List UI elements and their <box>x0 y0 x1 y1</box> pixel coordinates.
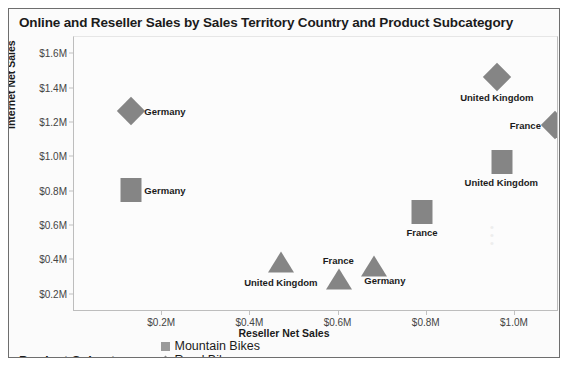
legend-marker-square-icon <box>161 342 170 351</box>
y-tick-label: $1.4M <box>23 82 67 93</box>
data-point-triangle[interactable] <box>268 252 294 273</box>
data-point-label: France <box>406 227 437 238</box>
data-point-label: Germany <box>144 106 185 117</box>
data-point-label: United Kingdom <box>244 277 317 288</box>
x-tick-label: $0.2M <box>147 317 175 328</box>
legend-item-square[interactable]: Mountain Bikes <box>161 339 259 353</box>
y-axis-title: Internet Net Sales <box>8 40 17 129</box>
x-tick-mark <box>514 311 515 315</box>
y-tick-label: $0.8M <box>23 185 67 196</box>
chart-legend: Product Subcategory Mountain BikesRoad B… <box>19 339 273 358</box>
legend-item-label: Mountain Bikes <box>174 339 259 353</box>
y-tick-label: $1.6M <box>23 48 67 59</box>
x-tick-mark <box>249 311 250 315</box>
y-tick-label: $1.2M <box>23 116 67 127</box>
data-point-diamond[interactable] <box>117 97 145 125</box>
data-point-square[interactable] <box>412 200 433 224</box>
data-point-square[interactable] <box>121 178 142 202</box>
x-tick-label: $1.0M <box>500 317 528 328</box>
legend-item-label: Road Bikes <box>174 353 238 358</box>
x-tick-mark <box>161 311 162 315</box>
x-tick-mark <box>338 311 339 315</box>
legend-title: Product Subcategory <box>19 353 150 359</box>
y-tick-label: $0.6M <box>23 220 67 231</box>
chart-title: Online and Reseller Sales by Sales Terri… <box>19 15 513 30</box>
data-point-diamond[interactable] <box>540 111 558 139</box>
legend-marker-diamond-icon <box>161 355 171 358</box>
data-point-triangle[interactable] <box>361 255 387 276</box>
x-tick-mark <box>426 311 427 315</box>
data-point-diamond[interactable] <box>483 62 511 90</box>
x-tick-label: $0.4M <box>235 317 263 328</box>
data-point-label: Germany <box>144 185 185 196</box>
x-tick-label: $0.8M <box>412 317 440 328</box>
render-artifact: ••• <box>490 223 492 247</box>
chart-report-frame: Online and Reseller Sales by Sales Terri… <box>8 8 560 358</box>
scatter-plot-area[interactable]: ••• GermanyUnited KingdomFranceGermanyUn… <box>73 36 558 311</box>
y-tick-label: $0.4M <box>23 254 67 265</box>
data-point-label: United Kingdom <box>465 177 538 188</box>
y-tick-label: $1.0M <box>23 151 67 162</box>
data-point-label: United Kingdom <box>460 92 533 103</box>
data-point-label: Germany <box>364 275 405 286</box>
data-point-label: France <box>510 120 541 131</box>
x-tick-label: $0.6M <box>324 317 352 328</box>
y-tick-label: $0.2M <box>23 288 67 299</box>
data-point-square[interactable] <box>491 150 512 174</box>
data-point-label: France <box>323 255 354 266</box>
x-axis-title: Reseller Net Sales <box>9 327 559 339</box>
legend-item-diamond[interactable]: Road Bikes <box>161 353 259 358</box>
data-point-triangle[interactable] <box>326 269 352 290</box>
legend-items: Mountain BikesRoad BikesTouring Bikes <box>161 339 272 358</box>
